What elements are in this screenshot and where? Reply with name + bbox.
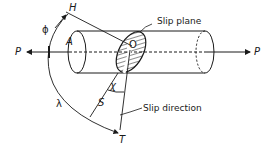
normal-end-label: H xyxy=(69,3,77,13)
load-label-left: P xyxy=(15,47,21,57)
slip-dir-end-label: T xyxy=(119,135,125,145)
chi-label: χ xyxy=(110,81,116,91)
cross-section-label: A xyxy=(66,37,73,47)
slip-direction-leader xyxy=(120,108,142,115)
diagram-drawing xyxy=(0,0,274,148)
lambda-label: λ xyxy=(56,99,62,109)
phi-label: ϕ xyxy=(42,25,49,35)
load-label-right: P xyxy=(254,47,260,57)
slip-direction-label: Slip direction xyxy=(143,104,202,113)
slip-plane-label: Slip plane xyxy=(157,17,201,26)
s-point-label: S xyxy=(98,98,104,108)
schmid-law-diagram: P P A O H T S ϕ λ χ Slip plane Slip dire… xyxy=(0,0,274,148)
origin-label: O xyxy=(129,40,137,50)
slip-plane-normal xyxy=(66,12,132,46)
